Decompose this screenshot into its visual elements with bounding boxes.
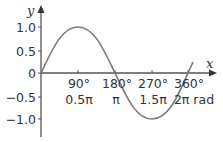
x-tick-rad-1.5pi: 1.5π <box>139 92 167 107</box>
y-axis-label: y <box>26 3 35 18</box>
sine-chart: y x 1.0 0.5 0 −0.5 −1.0 90° 180° 270° 36… <box>0 0 223 142</box>
y-axis-arrow-icon <box>38 5 45 13</box>
x-tick-rad-2pi: 2π rad <box>174 92 214 107</box>
x-tick-rad-0.5pi: 0.5π <box>65 92 93 107</box>
y-tick-label-0.5: 0.5 <box>16 44 36 59</box>
y-tick-label-neg1: −1.0 <box>6 112 36 127</box>
x-tick-label-270: 270° <box>138 76 168 91</box>
y-tick-label-0: 0 <box>28 66 36 81</box>
x-tick-label-180: 180° <box>102 76 132 91</box>
x-tick-label-90: 90° <box>68 76 90 91</box>
y-tick-label-neg0.5: −0.5 <box>6 90 36 105</box>
x-tick-label-360: 360° <box>174 76 204 91</box>
x-axis-label: x <box>206 56 214 71</box>
x-tick-rad-pi: π <box>112 92 120 107</box>
y-tick-label-1: 1.0 <box>16 20 36 35</box>
